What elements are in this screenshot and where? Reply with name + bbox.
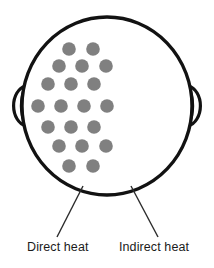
leader-line-indirect-heat: [131, 186, 158, 237]
heat-dot: [87, 77, 101, 91]
heat-dot: [86, 42, 100, 56]
heat-dot: [87, 120, 101, 134]
heat-dot: [62, 42, 76, 56]
heat-dot: [75, 139, 89, 153]
heat-dot: [75, 59, 89, 73]
heat-dot: [62, 159, 76, 173]
heat-dot: [64, 120, 78, 134]
heat-dot: [41, 120, 55, 134]
head-heat-diagram: Direct heat Indirect heat: [0, 0, 214, 268]
label-indirect-heat: Indirect heat: [119, 240, 189, 254]
leader-line-direct-heat: [57, 186, 83, 237]
heat-dot: [54, 99, 68, 113]
heat-dot: [77, 99, 91, 113]
heat-dot: [100, 99, 114, 113]
label-direct-heat: Direct heat: [27, 240, 89, 254]
heat-dot: [52, 139, 66, 153]
heat-dot: [64, 77, 78, 91]
heat-dot: [52, 59, 66, 73]
heat-dot: [99, 139, 113, 153]
heat-dot: [41, 77, 55, 91]
heat-dot: [99, 59, 113, 73]
diagram-canvas: [0, 0, 214, 268]
heat-dot: [86, 159, 100, 173]
heat-dot: [31, 99, 45, 113]
